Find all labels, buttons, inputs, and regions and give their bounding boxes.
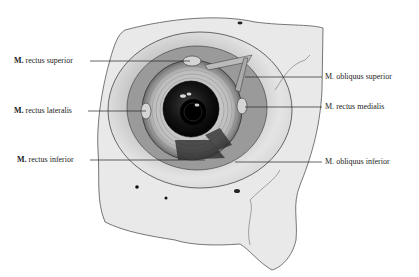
label-text: rectus medialis [336,102,384,111]
label-prefix: M. [325,157,334,166]
label-obliquus-inferior: M. obliquus inferior [325,157,390,167]
label-prefix: M. [14,56,24,65]
label-text: rectus inferior [29,155,74,164]
label-prefix: M. [325,72,334,81]
label-rectus-lateralis: M. rectus lateralis [14,106,72,116]
label-prefix: M. [325,102,334,111]
muscle-rectus-medialis [237,98,247,114]
label-text: obliquus inferior [336,157,390,166]
label-text: rectus lateralis [26,106,72,115]
label-text: rectus superior [26,56,73,65]
label-text: obliquus superior [336,72,392,81]
label-obliquus-superior: M. obliquus superior [325,72,392,82]
orbit-illustration [0,0,419,277]
label-rectus-medialis: M. rectus medialis [325,102,384,112]
label-rectus-inferior: M. rectus inferior [17,155,74,165]
label-prefix: M. [17,155,27,164]
label-rectus-superior: M. rectus superior [14,56,73,66]
label-prefix: M. [14,106,24,115]
